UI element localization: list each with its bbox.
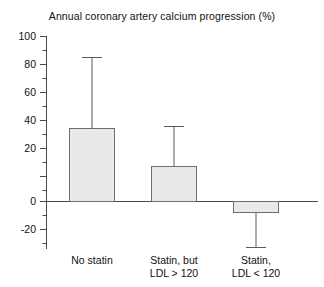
y-tick-label-100: 100 [18, 30, 36, 42]
bar-statin-ldl-below-120 [234, 202, 279, 213]
x-category-label-2-line-1: LDL < 120 [232, 267, 281, 279]
x-category-label-1-line-1: LDL > 120 [150, 267, 199, 279]
y-tick-label-60: 60 [24, 86, 36, 98]
error-bar-no-statin [82, 58, 102, 129]
y-minor-ticks [43, 51, 47, 244]
chart-figure: Annual coronary artery calcium progressi… [0, 0, 324, 287]
y-tick-label-neg20: -20 [21, 223, 36, 235]
y-tick-label-0: 0 [30, 195, 36, 207]
bar-statin-ldl-above-120 [152, 167, 197, 202]
x-category-label-2-line-0: Statin, [241, 254, 271, 266]
bar-chart-plot: 100 80 60 40 20 0 -20 No statin Statin, … [0, 0, 324, 287]
x-category-label-1-line-0: Statin, but [150, 254, 197, 266]
error-bar-statin-ldl-below-120 [246, 213, 266, 248]
bar-no-statin [70, 129, 115, 202]
x-category-label-0-line-0: No statin [71, 254, 113, 266]
y-tick-label-40: 40 [24, 114, 36, 126]
y-tick-label-20: 20 [24, 142, 36, 154]
y-tick-label-80: 80 [24, 58, 36, 70]
error-bar-statin-ldl-above-120 [164, 127, 184, 167]
y-major-ticks [40, 37, 47, 230]
